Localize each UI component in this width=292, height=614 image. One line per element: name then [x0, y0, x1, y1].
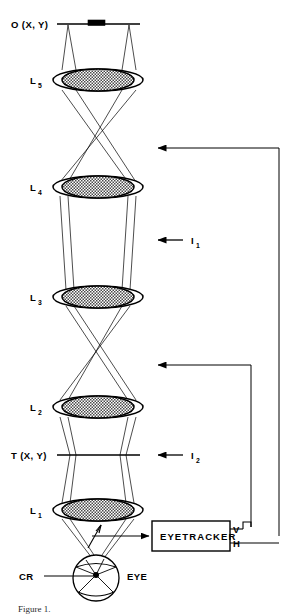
- lens-L3-label: L: [30, 292, 36, 303]
- eye-signal-line: [88, 525, 149, 548]
- image-I1-label: I: [191, 235, 194, 246]
- corneal-reflection-label: CR: [19, 571, 34, 582]
- lens-L4: [53, 176, 143, 198]
- lens-L4-subscript: 4: [38, 189, 42, 196]
- image-I1-subscript: 1: [196, 242, 200, 249]
- h-output-label: H: [233, 538, 240, 549]
- lens-L1-subscript: 1: [38, 512, 42, 519]
- object-slit: [88, 20, 105, 26]
- object-plane: [57, 20, 140, 26]
- figure-caption: Figure 1.: [18, 606, 51, 614]
- lens-L5-label: L: [30, 75, 36, 86]
- lens-L2: [53, 396, 143, 418]
- lens-L5: [53, 69, 143, 91]
- lens-L4-label: L: [30, 182, 36, 193]
- lens-L1: [53, 499, 143, 521]
- ray-bundle-L1-eye: [62, 519, 134, 558]
- lens-L2-label: L: [30, 402, 36, 413]
- eye-label: EYE: [127, 571, 147, 582]
- ray-bundle-L4-L3: [60, 196, 136, 290]
- lens-L2-subscript: 2: [38, 409, 42, 416]
- diagram-ink: [44, 20, 279, 601]
- ray-bundle-L5-L4: [60, 90, 136, 182]
- optical-system-diagram: O (X, Y) L 5 L 4 L 3 L 2 L 1 T (X, Y) I …: [0, 0, 292, 614]
- eye-diagram: [73, 555, 119, 601]
- figure-root: O (X, Y) L 5 L 4 L 3 L 2 L 1 T (X, Y) I …: [0, 0, 292, 614]
- ray-bundle-L3-L2: [60, 306, 136, 400]
- ray-bundle-upper: [62, 25, 136, 70]
- lens-L3: [53, 286, 143, 308]
- lens-L3-subscript: 3: [38, 299, 42, 306]
- v-output-label: V: [233, 524, 240, 535]
- target-plane-label: T (X, Y): [11, 450, 47, 461]
- lens-L1-label: L: [30, 505, 36, 516]
- feedback-line-lower: [158, 365, 251, 527]
- corneal-reflection-dot: [93, 572, 99, 578]
- figure-caption-strip: Figure 1.: [0, 606, 292, 614]
- object-plane-label: O (X, Y): [11, 19, 48, 30]
- lens-L5-subscript: 5: [38, 82, 42, 89]
- eyetracker-label: EYETRACKER: [160, 531, 236, 542]
- ray-bundle-L2-L1: [60, 417, 136, 503]
- image-I2-subscript: 2: [196, 457, 200, 464]
- feedback-line-upper: [158, 148, 279, 536]
- image-I2-label: I: [191, 450, 194, 461]
